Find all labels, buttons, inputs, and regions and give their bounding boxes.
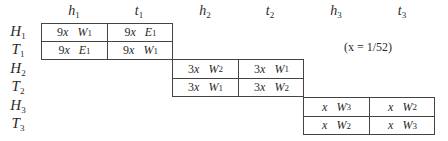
cell-H3-t3: xW2 (370, 98, 435, 116)
row-header-T3: T3 (0, 115, 36, 133)
row-header-H2: H2 (0, 60, 36, 78)
cell-T3-h3: xW2 (304, 117, 369, 134)
cell-T2-h2: 3xW1 (173, 79, 238, 96)
column-header-t1: t1 (109, 3, 169, 20)
row-header-T1: T1 (0, 41, 36, 59)
row-header-H1: H1 (0, 23, 36, 41)
column-header-h1: h1 (44, 3, 104, 20)
column-header-t2: t2 (240, 3, 300, 20)
cell-T3-t3: xW3 (370, 117, 435, 134)
cell-T2-t2: 3xW2 (239, 79, 304, 96)
row-header-H3: H3 (0, 97, 36, 115)
cell-H2-h2: 3xW2 (173, 60, 238, 78)
column-header-t3: t3 (372, 3, 432, 20)
cell-H3-h3: xW3 (304, 98, 369, 116)
matrix-block-3: xW3 xW2 xW2 xW3 (303, 97, 435, 135)
cell-H1-h1: 9xW1 (42, 24, 107, 41)
column-header-h2: h2 (175, 3, 235, 20)
cell-T1-t1: 9xW1 (108, 42, 173, 59)
row-header-T2: T2 (0, 78, 36, 96)
matrix-block-2: 3xW2 3xW1 3xW1 3xW2 (172, 59, 304, 97)
cell-T1-h1: 9xE1 (42, 42, 107, 59)
column-header-h3: h3 (306, 3, 366, 20)
cell-H1-t1: 9xE1 (108, 24, 173, 41)
x-value-note: (x = 1/52) (344, 40, 392, 55)
matrix-block-1: 9xW1 9xE1 9xE1 9xW1 (41, 23, 173, 60)
cell-H2-t2: 3xW1 (239, 60, 304, 78)
